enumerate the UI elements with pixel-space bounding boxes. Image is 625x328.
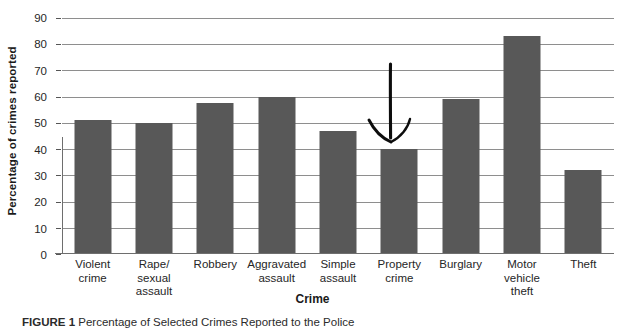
bar-series: [62, 18, 614, 254]
bar: [565, 170, 602, 254]
x-axis-category-label-line: assault: [307, 272, 368, 286]
y-tick-label: 90: [34, 12, 47, 24]
bar-slot: [553, 18, 614, 254]
bar-slot: [491, 18, 552, 254]
y-axis-tick: 0: [56, 254, 61, 255]
y-tick-label: 30: [34, 170, 47, 182]
y-tick-label: 50: [34, 117, 47, 129]
x-axis-category-label: Simpleassault: [307, 258, 368, 285]
y-axis-tick: 60: [56, 97, 61, 98]
x-axis-category-label-line: crime: [369, 272, 430, 286]
x-axis-category-label-line: Motor: [491, 258, 552, 272]
y-axis-title: Percentage of crimes reported: [0, 0, 24, 262]
y-axis-tick: 90: [56, 18, 61, 19]
x-axis-category-label-line: Aggravated: [246, 258, 307, 272]
bar: [381, 149, 418, 254]
y-tick-label: 20: [34, 196, 47, 208]
x-axis-title-text: Crime: [295, 292, 329, 306]
bar-slot: [430, 18, 491, 254]
bar: [197, 103, 234, 254]
y-axis-tick: 70: [56, 70, 61, 71]
x-axis-category-label-line: Property: [369, 258, 430, 272]
x-axis-category-label-line: Burglary: [430, 258, 491, 272]
y-axis-tick: 20: [56, 202, 61, 203]
y-axis-tick: 80: [56, 44, 61, 45]
x-axis-category-label-line: Rape/: [123, 258, 184, 272]
bar: [258, 97, 295, 254]
y-axis-tick: 50: [56, 123, 61, 124]
x-axis-category-label: Robbery: [185, 258, 246, 272]
x-axis-category-label: Burglary: [430, 258, 491, 272]
x-axis-category-label-line: assault: [246, 272, 307, 286]
x-axis-category-label-line: sexual: [123, 272, 184, 286]
y-axis-line: [62, 137, 63, 254]
y-axis-tick: 30: [56, 175, 61, 176]
y-tick-label: 70: [34, 65, 47, 77]
figure-caption-label: FIGURE 1: [22, 316, 75, 328]
x-axis-category-label: Violentcrime: [62, 258, 123, 285]
bar: [74, 120, 111, 254]
bar-slot: [369, 18, 430, 254]
y-tick-label: 10: [34, 223, 47, 235]
bar: [135, 123, 172, 254]
y-tick-label: 80: [34, 38, 47, 50]
bar-slot: [185, 18, 246, 254]
y-axis-tick: 10: [56, 228, 61, 229]
x-axis-category-label-line: Simple: [307, 258, 368, 272]
y-tick-label: 0: [41, 249, 47, 261]
y-axis-title-text: Percentage of crimes reported: [6, 46, 18, 215]
bar: [442, 99, 479, 254]
bar-slot: [307, 18, 368, 254]
x-axis-title: Crime: [0, 292, 625, 306]
bar-slot: [123, 18, 184, 254]
bar: [319, 131, 356, 254]
y-tick-label: 40: [34, 144, 47, 156]
figure-caption: FIGURE 1 Percentage of Selected Crimes R…: [22, 316, 622, 328]
x-axis-category-label-line: vehicle: [491, 272, 552, 286]
figure-container: Percentage of crimes reported 0102030405…: [0, 0, 625, 328]
x-axis-category-label-line: crime: [62, 272, 123, 286]
plot-area: 0102030405060708090: [62, 18, 614, 254]
bar-slot: [62, 18, 123, 254]
x-axis-category-label: Aggravatedassault: [246, 258, 307, 285]
bar: [503, 36, 540, 254]
x-axis-category-label-line: Theft: [553, 258, 614, 272]
x-axis-category-label: Theft: [553, 258, 614, 272]
x-axis-category-label: Propertycrime: [369, 258, 430, 285]
y-tick-label: 60: [34, 91, 47, 103]
x-axis-category-label-line: Robbery: [185, 258, 246, 272]
bar-slot: [246, 18, 307, 254]
x-axis-category-label-line: Violent: [62, 258, 123, 272]
y-axis-tick: 40: [56, 149, 61, 150]
figure-caption-text: Percentage of Selected Crimes Reported t…: [78, 316, 354, 328]
x-axis-line: [55, 253, 614, 254]
